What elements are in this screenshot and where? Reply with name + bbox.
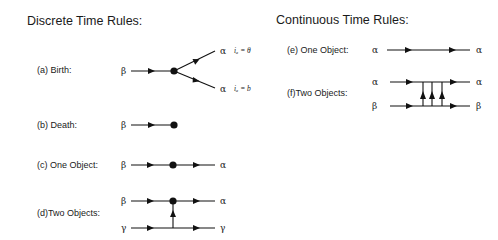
arrow-icon — [193, 225, 200, 231]
event-node — [169, 197, 176, 204]
arrow-icon — [170, 210, 176, 217]
output-symbol: β — [476, 101, 481, 111]
arrow-icon — [193, 198, 200, 204]
rule-label: (f)Two Objects: — [287, 88, 348, 98]
arrow-icon — [147, 225, 154, 231]
output-symbol: γ — [220, 223, 225, 233]
discrete-title: Discrete Time Rules: — [27, 14, 142, 28]
output-symbol: α — [220, 196, 226, 206]
arrow-icon — [450, 79, 457, 85]
rule-two-objects-discrete: (d)Two Objects: β γ α γ — [37, 196, 226, 233]
rule-label: (a) Birth: — [37, 65, 72, 75]
rules-diagram: Discrete Time Rules: Continuous Time Rul… — [0, 0, 498, 240]
arrow-icon — [148, 122, 155, 128]
arrow-icon — [147, 198, 154, 204]
input-symbol: α — [372, 45, 378, 55]
rule-one-object-discrete: (c) One Object: β α — [37, 160, 226, 170]
event-node — [170, 67, 177, 74]
rule-one-object-continuous: (e) One Object: α α — [287, 45, 482, 55]
output-symbol: α — [476, 45, 482, 55]
input-symbol: β — [121, 66, 126, 76]
output-symbol: α — [220, 84, 226, 94]
continuous-title: Continuous Time Rules: — [276, 13, 409, 27]
arrow-icon — [449, 47, 456, 53]
event-node — [170, 121, 177, 128]
arrow-icon — [420, 91, 426, 99]
output-label: iₐ = θ — [234, 46, 251, 55]
rule-label: (e) One Object: — [287, 45, 349, 55]
input-symbol: α — [372, 77, 378, 87]
rule-death: (b) Death: β — [37, 120, 178, 130]
arrow-icon — [439, 91, 445, 99]
output-symbol: α — [476, 77, 482, 87]
input-symbol: β — [121, 120, 126, 130]
event-node — [169, 161, 176, 168]
arrow-icon — [148, 68, 155, 74]
arrow-icon — [406, 79, 413, 85]
arrow-icon — [193, 162, 200, 168]
input-symbol: β — [372, 101, 377, 111]
rule-birth: (a) Birth: β α α iₐ = θ iₐ = b — [37, 46, 251, 94]
rule-label: (b) Death: — [37, 120, 77, 130]
input-symbol: β — [121, 160, 126, 170]
input-symbol: γ — [121, 223, 126, 233]
output-symbol: α — [220, 46, 226, 56]
arrow-icon — [405, 47, 412, 53]
arrow-icon — [429, 91, 435, 99]
input-symbol: β — [121, 196, 126, 206]
arrow-icon — [406, 103, 413, 109]
output-label: iₐ = b — [234, 84, 251, 93]
output-symbol: α — [220, 160, 226, 170]
arrow-icon — [450, 103, 457, 109]
rule-two-objects-continuous: (f)Two Objects: α β α β — [287, 77, 482, 111]
arrow-icon — [147, 162, 154, 168]
rule-label: (d)Two Objects: — [37, 208, 100, 218]
rule-label: (c) One Object: — [37, 160, 98, 170]
